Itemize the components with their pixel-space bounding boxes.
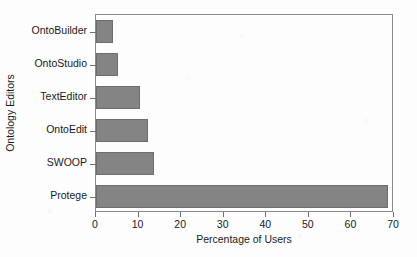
y-axis-tick [90, 98, 96, 99]
x-axis-tick [393, 212, 394, 217]
x-axis-tick [308, 212, 309, 217]
x-axis-tick-label: 40 [259, 218, 271, 230]
x-axis-tick-label: 50 [302, 218, 314, 230]
x-axis-tick-label: 0 [92, 218, 98, 230]
x-axis-tick [138, 212, 139, 217]
plot-area [95, 14, 393, 212]
y-axis-tick-label: SWOOP [47, 157, 87, 168]
x-axis-tick-label: 20 [174, 218, 186, 230]
bar [96, 119, 148, 142]
bar [96, 20, 113, 43]
y-axis-tick-label: OntoEdit [46, 124, 87, 135]
bar [96, 185, 388, 208]
bar [96, 86, 140, 109]
bar-chart-figure: Ontology Editors OntoBuilderOntoStudioTe… [0, 0, 417, 257]
y-axis-tick [90, 131, 96, 132]
y-axis-tick [90, 197, 96, 198]
y-axis-tick [90, 164, 96, 165]
x-axis-title-label: Percentage of Users [196, 233, 292, 245]
bar [96, 152, 154, 175]
x-axis-tick [265, 212, 266, 217]
x-axis-tick [95, 212, 96, 217]
y-axis-tick [90, 32, 96, 33]
x-axis-tick-label: 70 [387, 218, 399, 230]
x-axis-tick [350, 212, 351, 217]
y-axis-tick [90, 65, 96, 66]
y-axis-tick-label: OntoStudio [34, 58, 87, 69]
x-axis-tick [180, 212, 181, 217]
y-axis-tick-label: OntoBuilder [32, 25, 87, 36]
bar [96, 53, 118, 76]
x-axis-tick-label: 60 [345, 218, 357, 230]
x-axis-tick-label: 30 [217, 218, 229, 230]
y-axis-tick-label: Protege [50, 190, 87, 201]
y-axis-tick-label: TextEditor [40, 91, 87, 102]
x-axis-tick-label: 10 [132, 218, 144, 230]
y-axis-labels: OntoBuilderOntoStudioTextEditorOntoEditS… [0, 14, 87, 212]
x-axis-tick [223, 212, 224, 217]
x-axis-title: Percentage of Users [95, 233, 393, 245]
